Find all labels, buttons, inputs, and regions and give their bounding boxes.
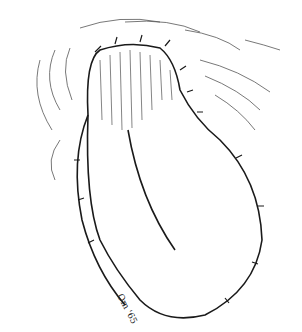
flap-outline bbox=[77, 44, 262, 317]
medical-drawing bbox=[0, 0, 302, 332]
stippling bbox=[100, 50, 172, 130]
sutures bbox=[74, 35, 264, 303]
skin-lines bbox=[37, 19, 280, 180]
